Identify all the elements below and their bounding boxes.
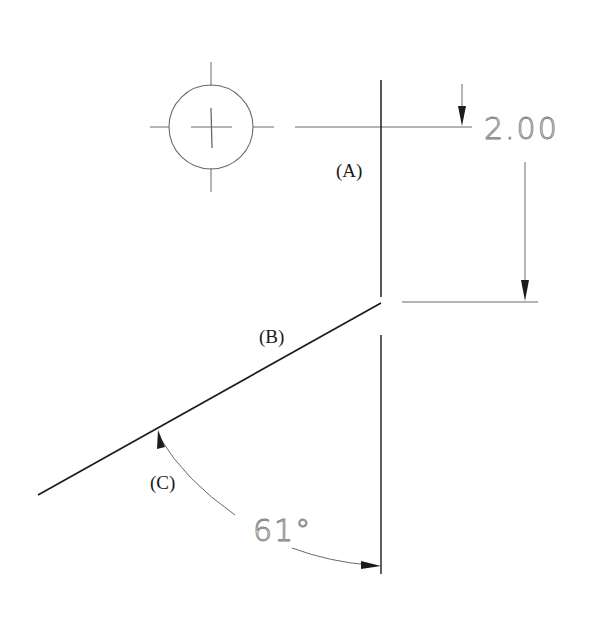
label-a: (A) [336,160,362,182]
angle-dimension-arc-icon [157,430,381,569]
line-b [38,303,381,495]
label-b: (B) [259,326,284,348]
bottom-dimension-arrow-icon [521,162,529,301]
linear-dimension-value: 2.00 [484,111,559,146]
angle-dimension-value: 61° [253,513,312,548]
technical-drawing: (A) (B) (C) 2.00 61° [0,0,605,620]
label-c: (C) [150,472,175,494]
top-dimension-arrow-icon [458,84,466,126]
circle-center-mark-icon [150,62,274,192]
